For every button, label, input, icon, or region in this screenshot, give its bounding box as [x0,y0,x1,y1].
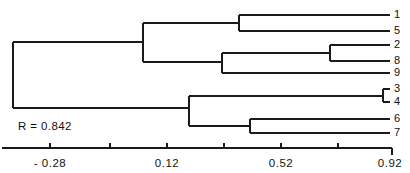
leaf-label-3: 3 [394,83,400,94]
x-axis [2,143,392,155]
tick-label-0.52: 0.52 [269,157,293,169]
leaf-label-9: 9 [394,67,400,78]
cluster-3-4 [189,89,390,102]
tick-label--0.28: - 0.28 [34,157,66,169]
leaf-label-8: 8 [394,55,400,66]
cluster-6-7 [189,119,390,133]
dendrogram-figure: 1 5 2 8 9 3 4 6 7 - 0.28 0.12 0.52 0.92 … [0,0,410,173]
cluster-2-8-9 [143,45,390,73]
tick-label-0.12: 0.12 [155,157,179,169]
tick-label-0.92: 0.92 [378,157,402,169]
leaf-label-5: 5 [394,25,400,36]
leaf-label-4: 4 [394,96,400,107]
leaf-label-7: 7 [394,127,400,138]
dendrogram-plot [0,0,410,173]
leaf-label-1: 1 [394,9,400,20]
cluster-upper [13,23,143,62]
cophenetic-correlation-label: R = 0.842 [18,120,72,132]
leaf-label-6: 6 [394,113,400,124]
cluster-1-5 [143,15,390,31]
leaf-label-2: 2 [394,39,400,50]
